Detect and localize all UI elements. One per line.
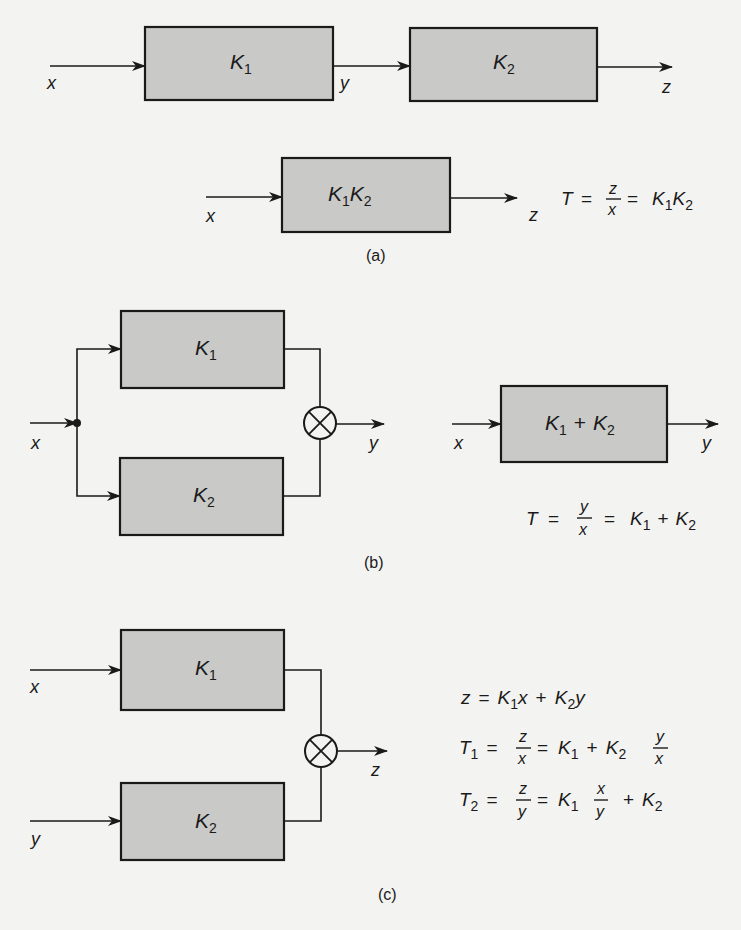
signal-label-y: y [367,433,379,453]
eq-lhs: T [526,508,539,529]
eq-numerator: z [518,728,527,745]
summing-junction-icon [304,407,336,439]
eq-denominator: x [607,201,617,218]
panel-c: x K1 y K2 z z=K1x+K2y T1= z [29,630,668,903]
signal-label-z: z [370,760,380,780]
eq-numerator: z [518,780,527,797]
signal-label-y: y [29,829,41,849]
transfer-equation-b: T = y x = K1+K2 [526,498,696,538]
eq-equals: = [548,508,559,529]
signal-label-x: x [29,677,40,697]
k2-to-summer-wire [284,767,321,821]
eq-equals: = [604,508,615,529]
branch-lower-wire [77,423,120,496]
eq-numerator: y [579,498,589,515]
eq-equals: = [581,188,592,209]
caption-a: (a) [366,247,386,264]
equiv-signal-label-z: z [528,205,538,225]
caption-c: (c) [378,886,397,903]
k1-to-summer-wire [284,349,320,407]
branch-upper-wire [77,349,121,423]
equiv-signal-label-x: x [205,206,216,226]
summing-diagram: x K1 y K2 z [29,630,387,860]
block-k1-plus-k2-label: K1+K2 [545,411,615,438]
k1-to-summer-wire [284,670,321,735]
equation-line-1: z=K1x+K2y [460,687,586,712]
transfer-equation-a: T = z x = K1K2 [561,180,693,218]
signal-label-y: y [338,73,350,93]
svg-text:=K1+K2: =K1+K2 [537,737,626,762]
svg-text:+K2: +K2 [623,789,663,814]
eq-numerator: z [608,180,617,197]
svg-text:T1=: T1= [459,737,498,762]
eq-equals: = [627,188,638,209]
summing-junction-icon [305,735,337,767]
block-diagram-figure: x K1 y K2 z x K1K2 z T = z x = K1K [0,0,741,930]
eq-numerator: x [596,780,606,797]
signal-label-z: z [661,77,671,97]
equation-line-3: T2= z y =K1 x y +K2 [459,780,663,820]
equivalent-diagram: x K1K2 z [205,158,538,232]
eq-denominator: x [517,750,527,767]
signal-label-x: x [30,433,41,453]
eq-denominator: y [595,803,605,820]
equivalent-diagram: x K1+K2 y [452,386,718,462]
k2-to-summer-wire [283,439,320,496]
eq-numerator: y [655,728,665,745]
eq-denominator: y [517,803,527,820]
eq-denominator: x [654,750,664,767]
parallel-diagram: x K1 K2 y [30,311,384,535]
eq-rhs: K1+K2 [630,508,696,533]
caption-b: (b) [364,554,384,571]
svg-text:=K1: =K1 [537,789,579,814]
equations-c: z=K1x+K2y T1= z x =K1+K2 y x T2= z y =K1… [459,687,668,820]
panel-b: x K1 K2 y x K1+K2 y [30,311,718,571]
svg-text:T2=: T2= [459,789,498,814]
series-diagram: x K1 y K2 z [46,27,672,101]
eq-rhs: K1K2 [652,188,693,213]
panel-a: x K1 y K2 z x K1K2 z T = z x = K1K [46,27,693,264]
eq-denominator: x [578,521,588,538]
equiv-signal-label-x: x [453,433,464,453]
equation-line-2: T1= z x =K1+K2 y x [459,728,668,767]
eq-lhs: T [561,188,574,209]
signal-label-x: x [46,73,57,93]
equiv-signal-label-y: y [700,433,712,453]
